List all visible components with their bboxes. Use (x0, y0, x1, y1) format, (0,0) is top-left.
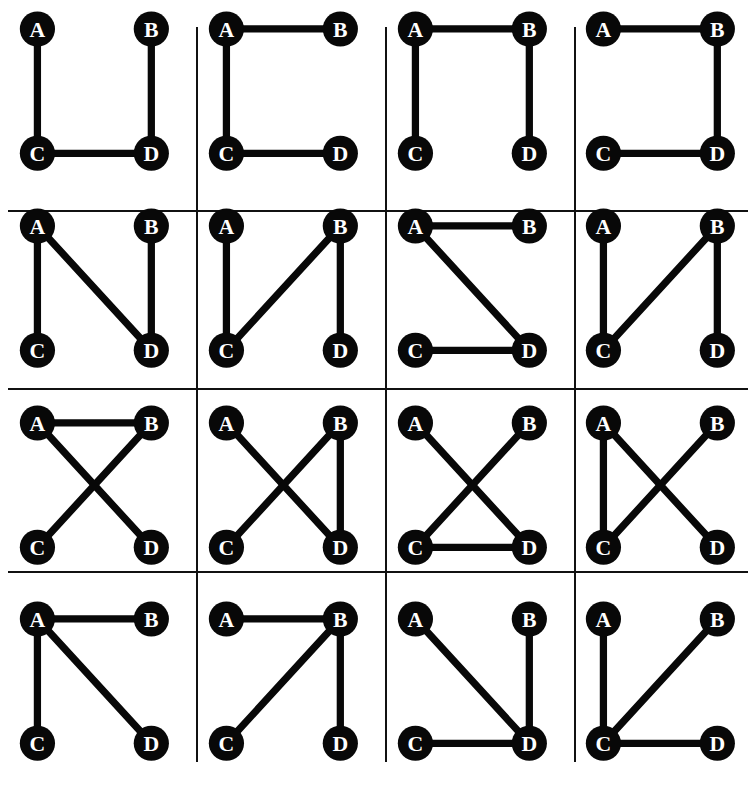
node-C: C (586, 332, 621, 367)
node-A: A (209, 208, 244, 243)
node-label-B: B (144, 18, 159, 42)
node-D: D (700, 332, 735, 367)
node-C: C (586, 726, 621, 761)
node-A: A (20, 405, 55, 440)
node-B: B (322, 11, 357, 46)
node-label-D: D (521, 536, 537, 560)
node-A: A (586, 405, 621, 440)
node-C: C (397, 136, 432, 171)
node-B: B (700, 11, 735, 46)
node-C: C (397, 726, 432, 761)
edge-B-C (226, 619, 340, 743)
graph-grid-figure: ABCDABCDABCDABCDABCDABCDABCDABCDABCDABCD… (0, 0, 755, 787)
node-D: D (134, 529, 169, 564)
node-label-B: B (144, 215, 159, 239)
node-label-B: B (522, 412, 537, 436)
node-D: D (322, 726, 357, 761)
node-C: C (586, 136, 621, 171)
node-label-D: D (143, 339, 159, 363)
node-label-C: C (30, 733, 46, 757)
node-label-C: C (218, 339, 234, 363)
node-A: A (397, 405, 432, 440)
node-label-B: B (333, 215, 348, 239)
node-label-A: A (596, 215, 612, 239)
node-B: B (322, 405, 357, 440)
node-C: C (209, 726, 244, 761)
graph-cell-15: ABCD (378, 590, 567, 787)
graph-cell-6: ABCD (189, 197, 378, 394)
node-A: A (586, 208, 621, 243)
node-C: C (209, 529, 244, 564)
node-D: D (322, 136, 357, 171)
node-label-C: C (596, 536, 612, 560)
graph-cell-13: ABCD (0, 590, 189, 787)
node-A: A (586, 11, 621, 46)
node-label-A: A (407, 608, 423, 632)
node-label-B: B (333, 412, 348, 436)
node-label-D: D (521, 142, 537, 166)
node-A: A (209, 11, 244, 46)
node-label-B: B (522, 215, 537, 239)
node-C: C (209, 332, 244, 367)
edge-B-C (226, 226, 340, 350)
graph-cell-3: ABCD (378, 0, 567, 197)
node-A: A (397, 602, 432, 637)
node-B: B (134, 602, 169, 637)
node-label-D: D (143, 733, 159, 757)
node-label-D: D (332, 142, 348, 166)
node-label-C: C (218, 536, 234, 560)
node-label-B: B (710, 18, 725, 42)
node-A: A (397, 208, 432, 243)
node-label-C: C (407, 142, 423, 166)
graph-cell-11: ABCD (378, 394, 567, 591)
node-label-C: C (596, 339, 612, 363)
node-B: B (511, 11, 546, 46)
node-A: A (586, 602, 621, 637)
node-label-D: D (143, 142, 159, 166)
node-label-C: C (407, 339, 423, 363)
node-label-A: A (30, 608, 46, 632)
node-label-C: C (30, 339, 46, 363)
node-B: B (511, 602, 546, 637)
node-C: C (209, 136, 244, 171)
graph-cell-14: ABCD (189, 590, 378, 787)
node-label-D: D (710, 142, 726, 166)
node-label-C: C (596, 142, 612, 166)
node-label-C: C (30, 536, 46, 560)
node-B: B (134, 11, 169, 46)
node-A: A (20, 208, 55, 243)
graph-cell-7: ABCD (378, 197, 567, 394)
node-A: A (20, 11, 55, 46)
node-B: B (700, 208, 735, 243)
node-A: A (397, 11, 432, 46)
node-label-C: C (407, 536, 423, 560)
node-C: C (20, 136, 55, 171)
node-label-B: B (333, 608, 348, 632)
node-label-B: B (522, 608, 537, 632)
node-label-B: B (144, 608, 159, 632)
node-B: B (511, 405, 546, 440)
graph-cell-9: ABCD (0, 394, 189, 591)
node-label-A: A (596, 18, 612, 42)
node-D: D (511, 726, 546, 761)
graph-cell-16: ABCD (566, 590, 755, 787)
node-C: C (397, 529, 432, 564)
node-D: D (322, 332, 357, 367)
node-label-A: A (30, 412, 46, 436)
edge-A-D (415, 619, 529, 743)
node-label-A: A (218, 18, 234, 42)
node-label-C: C (218, 142, 234, 166)
node-label-D: D (332, 536, 348, 560)
node-C: C (20, 332, 55, 367)
node-label-B: B (333, 18, 348, 42)
graph-grid: ABCDABCDABCDABCDABCDABCDABCDABCDABCDABCD… (0, 0, 755, 787)
node-label-A: A (407, 215, 423, 239)
graph-cell-10: ABCD (189, 394, 378, 591)
node-label-C: C (30, 142, 46, 166)
node-B: B (511, 208, 546, 243)
node-B: B (322, 602, 357, 637)
node-B: B (700, 405, 735, 440)
node-B: B (700, 602, 735, 637)
node-D: D (700, 136, 735, 171)
node-label-A: A (596, 412, 612, 436)
